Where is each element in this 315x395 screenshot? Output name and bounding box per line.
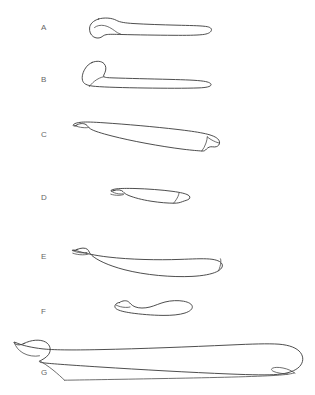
elongate-bone-outline-b bbox=[82, 61, 211, 88]
panel-label-g: G bbox=[41, 369, 48, 377]
panel-label-e: E bbox=[41, 253, 47, 261]
panel-label-g-text: G bbox=[41, 368, 48, 377]
panel-label-f-text: F bbox=[41, 307, 46, 316]
elongate-bone-outline-e bbox=[72, 248, 222, 277]
elongate-bone-outline-g bbox=[14, 340, 303, 375]
panel-label-c-text: C bbox=[41, 130, 47, 139]
panel-label-c: C bbox=[41, 131, 47, 139]
panel-label-a-text: A bbox=[41, 23, 47, 32]
figure-plate: A B C D E F G bbox=[0, 0, 315, 395]
specimen-a-group bbox=[90, 18, 212, 38]
panel-label-b-text: B bbox=[41, 75, 47, 84]
specimen-g-group bbox=[14, 340, 303, 380]
specimen-b-group bbox=[82, 61, 211, 88]
elongate-bone-outline-a bbox=[90, 18, 212, 38]
panel-label-b: B bbox=[41, 76, 47, 84]
specimen-f-group bbox=[115, 301, 192, 316]
panel-label-e-text: E bbox=[41, 252, 47, 261]
specimen-drawing-canvas bbox=[0, 0, 315, 395]
specimen-d-group bbox=[111, 188, 190, 203]
elongate-bone-detail-d bbox=[111, 191, 123, 194]
elongate-bone-outline-c bbox=[73, 122, 219, 151]
specimen-e-group bbox=[72, 248, 222, 277]
elongate-bone-detail-d2 bbox=[111, 194, 124, 195]
panel-label-f: F bbox=[41, 308, 46, 316]
specimen-c-group bbox=[73, 122, 219, 151]
elongate-bone-outline-f bbox=[115, 301, 192, 316]
panel-label-a: A bbox=[41, 24, 47, 32]
panel-label-d: D bbox=[41, 194, 47, 202]
panel-label-d-text: D bbox=[41, 193, 47, 202]
